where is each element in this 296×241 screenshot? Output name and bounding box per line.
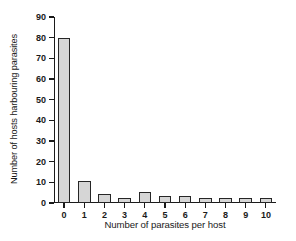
x-axis-tick: 9	[245, 203, 246, 208]
x-axis-tick: 4	[144, 203, 145, 208]
y-axis-tick: 70	[49, 58, 54, 59]
y-axis-tick: 90	[49, 16, 54, 17]
histogram-figure: Number of hosts harbouring parasites 010…	[0, 0, 296, 241]
y-axis-tick-label: 30	[36, 137, 46, 146]
y-axis-tick-label: 50	[36, 95, 46, 104]
y-axis-tick: 80	[49, 37, 54, 38]
bar	[260, 198, 273, 203]
x-axis-tick: 5	[164, 203, 165, 208]
y-axis-tick-label: 40	[36, 116, 46, 125]
y-axis-tick-label: 10	[36, 178, 46, 187]
y-axis-line	[54, 17, 55, 203]
x-axis-tick: 2	[104, 203, 105, 208]
bar	[179, 196, 192, 203]
x-axis-tick: 6	[185, 203, 186, 208]
x-axis-tick: 0	[63, 203, 64, 208]
bar	[239, 198, 252, 203]
y-axis-tick-label: 20	[36, 157, 46, 166]
y-axis-tick: 30	[49, 140, 54, 141]
y-axis-tick-label: 90	[36, 13, 46, 22]
bar	[219, 198, 232, 203]
y-axis-tick-label: 0	[41, 199, 46, 208]
x-axis-tick: 10	[265, 203, 266, 208]
x-axis-tick: 1	[84, 203, 85, 208]
x-axis-tick: 3	[124, 203, 125, 208]
plot-area: 0102030405060708090 012345678910	[54, 17, 276, 203]
bar	[159, 196, 172, 203]
y-axis-tick: 40	[49, 120, 54, 121]
y-axis-tick: 10	[49, 182, 54, 183]
bar	[78, 181, 91, 203]
y-axis-tick-label: 60	[36, 75, 46, 84]
y-axis-tick-label: 80	[36, 33, 46, 42]
x-axis-tick: 7	[205, 203, 206, 208]
bar	[58, 38, 71, 203]
bar	[118, 198, 131, 203]
y-axis-tick: 20	[49, 161, 54, 162]
bar	[98, 194, 111, 203]
y-axis-tick: 0	[49, 202, 54, 203]
y-axis-title: Number of hosts harbouring parasites	[9, 14, 19, 204]
bar	[199, 198, 212, 203]
y-axis-tick: 50	[49, 99, 54, 100]
bar	[139, 192, 152, 203]
x-axis-title: Number of parasites per host	[54, 219, 276, 230]
y-axis-tick: 60	[49, 78, 54, 79]
x-axis-tick: 8	[225, 203, 226, 208]
y-axis-tick-label: 70	[36, 54, 46, 63]
